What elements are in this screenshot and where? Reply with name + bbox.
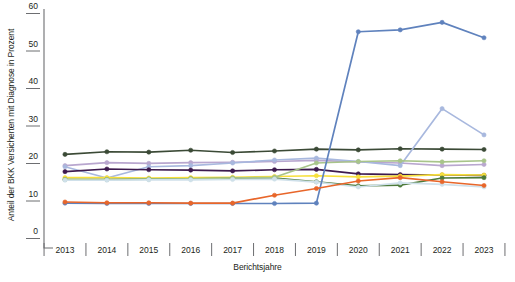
data-point-marker (440, 160, 444, 164)
data-point-marker (314, 156, 318, 160)
data-point-marker (189, 168, 193, 172)
data-point-marker (356, 159, 360, 163)
data-point-marker (189, 178, 193, 182)
data-point-marker (356, 185, 360, 189)
data-point-marker (272, 149, 276, 153)
x-tick-label: 2022 (422, 245, 462, 255)
y-tick-label: 40 (12, 76, 38, 86)
data-point-marker (272, 177, 276, 181)
y-tick-label: 30 (12, 114, 38, 124)
data-point-marker (272, 193, 276, 197)
data-point-marker (231, 150, 235, 154)
x-tick-label: 2020 (338, 245, 378, 255)
data-point-marker (440, 20, 444, 24)
axes (26, 9, 505, 256)
data-point-marker (440, 107, 444, 111)
data-point-marker (356, 179, 360, 183)
x-tick-label: 2023 (464, 245, 504, 255)
x-tick-label: 2019 (296, 245, 336, 255)
data-point-marker (231, 161, 235, 165)
y-tick-label: 20 (12, 151, 38, 161)
data-point-marker (314, 186, 318, 190)
data-point-marker (314, 174, 318, 178)
data-point-marker (231, 201, 235, 205)
x-axis-title: Berichtsjahre (0, 262, 515, 272)
x-tick-label: 2013 (45, 245, 85, 255)
data-point-marker (398, 147, 402, 151)
data-point-marker (105, 201, 109, 205)
data-point-marker (398, 176, 402, 180)
data-point-marker (105, 178, 109, 182)
plot-area (0, 0, 515, 282)
data-point-marker (63, 165, 67, 169)
data-point-marker (482, 183, 486, 187)
data-point-marker (189, 148, 193, 152)
data-point-marker (482, 133, 486, 137)
data-point-marker (398, 159, 402, 163)
data-point-marker (398, 28, 402, 32)
series-series-dark-green (63, 147, 486, 157)
x-tick-label: 2018 (255, 245, 295, 255)
y-tick-label: 10 (12, 189, 38, 199)
axis-spine (44, 9, 53, 248)
data-point-marker (147, 178, 151, 182)
data-point-marker (398, 181, 402, 185)
data-point-marker (272, 168, 276, 172)
y-tick-label: 60 (12, 1, 38, 11)
data-point-marker (482, 36, 486, 40)
data-point-marker (63, 170, 67, 174)
data-point-marker (105, 150, 109, 154)
data-point-marker (356, 175, 360, 179)
x-tick-label: 2016 (171, 245, 211, 255)
data-point-marker (314, 167, 318, 171)
data-point-marker (147, 150, 151, 154)
data-point-marker (63, 178, 67, 182)
data-point-marker (147, 168, 151, 172)
y-axis-title: Anteil der BKK Versicherten mit Diagnose… (6, 20, 16, 230)
line-chart: Anteil der BKK Versicherten mit Diagnose… (0, 0, 515, 282)
data-point-marker (272, 201, 276, 205)
data-point-marker (147, 201, 151, 205)
data-point-marker (314, 201, 318, 205)
data-point-marker (356, 30, 360, 34)
y-tick-label: 50 (12, 39, 38, 49)
data-point-marker (440, 180, 444, 184)
data-point-marker (356, 148, 360, 152)
data-point-marker (105, 167, 109, 171)
data-point-marker (314, 161, 318, 165)
x-tick-label: 2014 (87, 245, 127, 255)
data-point-marker (398, 164, 402, 168)
data-point-marker (314, 180, 318, 184)
data-point-marker (105, 161, 109, 165)
data-point-marker (440, 147, 444, 151)
x-tick-label: 2021 (380, 245, 420, 255)
data-point-marker (231, 177, 235, 181)
series-lines (63, 20, 486, 205)
data-point-marker (63, 200, 67, 204)
data-point-marker (189, 164, 193, 168)
data-point-marker (482, 147, 486, 151)
data-point-marker (272, 158, 276, 162)
data-point-marker (63, 152, 67, 156)
y-tick-label: 0 (12, 226, 38, 236)
data-point-marker (231, 169, 235, 173)
data-point-marker (482, 159, 486, 163)
x-tick-label: 2015 (129, 245, 169, 255)
data-point-marker (314, 147, 318, 151)
data-point-marker (189, 201, 193, 205)
x-tick-label: 2017 (213, 245, 253, 255)
data-point-marker (482, 176, 486, 180)
